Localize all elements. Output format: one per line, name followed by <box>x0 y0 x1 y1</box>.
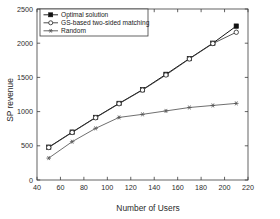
data-marker <box>49 21 53 25</box>
y-tick-label: 1000 <box>17 107 33 116</box>
data-marker <box>164 73 168 77</box>
x-tick-label: 160 <box>172 183 184 192</box>
data-marker <box>47 145 51 149</box>
chart-figure: 406080100120140160180200220 050010001500… <box>0 0 280 219</box>
y-tick-label: 2500 <box>17 5 33 14</box>
x-tick-label: 140 <box>148 183 160 192</box>
data-marker <box>49 13 53 17</box>
data-marker <box>140 88 144 92</box>
line-chart: 406080100120140160180200220 050010001500… <box>0 0 280 219</box>
x-tick-label: 100 <box>101 183 113 192</box>
data-marker <box>187 57 191 61</box>
x-tick-label: 80 <box>80 183 88 192</box>
data-marker <box>211 41 215 45</box>
x-tick-label: 180 <box>195 183 207 192</box>
y-axis-title: SP revenue <box>5 78 15 122</box>
x-tick-label: 200 <box>219 183 231 192</box>
x-tick-label: 120 <box>125 183 137 192</box>
data-marker <box>234 24 238 28</box>
x-tick-label: 220 <box>242 183 254 192</box>
y-tick-label: 1500 <box>17 73 33 82</box>
y-tick-label: 0 <box>29 176 33 185</box>
data-marker <box>70 130 74 134</box>
legend-label: Random <box>61 27 86 34</box>
data-marker <box>234 30 238 34</box>
data-marker <box>93 116 97 120</box>
y-tick-label: 500 <box>21 141 33 150</box>
x-tick-label: 40 <box>33 183 41 192</box>
legend-label: GS-based two-sided matching <box>61 19 150 27</box>
x-axis-title: Number of Users <box>116 203 179 213</box>
x-tick-label: 60 <box>56 183 64 192</box>
legend-label: Optimal solution <box>61 11 109 19</box>
chart-legend: Optimal solutionGS-based two-sided match… <box>40 9 150 36</box>
data-marker <box>117 102 121 106</box>
y-tick-label: 2000 <box>17 39 33 48</box>
